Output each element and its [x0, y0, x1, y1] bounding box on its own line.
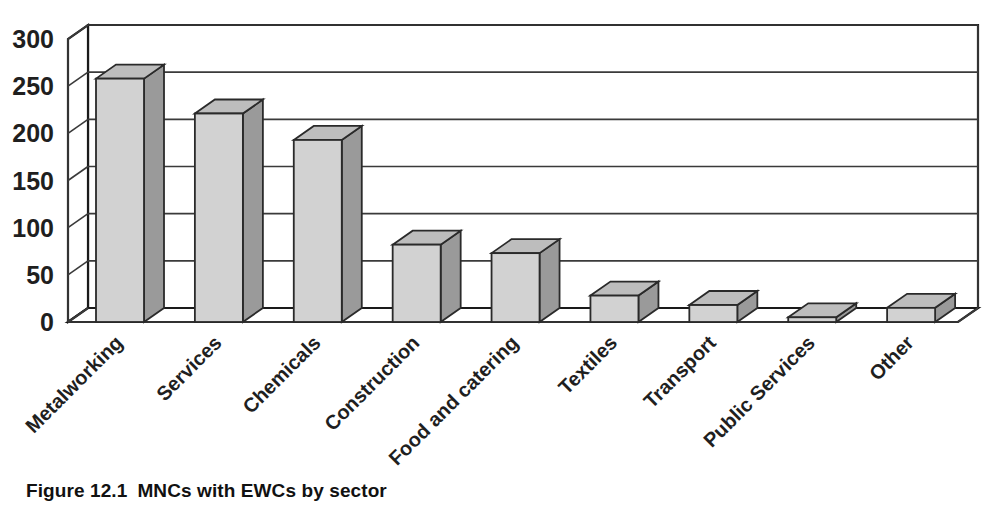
bar-front-face: [590, 296, 638, 322]
bar-chart-3d: 050100150200250300MetalworkingServicesCh…: [0, 0, 995, 470]
x-axis-category-label: Textiles: [554, 331, 621, 398]
x-axis-category-label: Other: [865, 331, 918, 384]
y-axis-tick-label: 150: [12, 167, 54, 195]
bar-front-face: [294, 140, 342, 322]
bar-front-face: [195, 114, 243, 322]
y-axis-tick-label: 300: [12, 25, 54, 53]
bar-front-face: [689, 305, 737, 322]
bar-side-face: [144, 65, 164, 322]
y-axis-tick-label: 200: [12, 119, 54, 147]
figure-caption: Figure 12.1MNCs with EWCs by sector: [26, 480, 966, 502]
bar-5: [492, 239, 560, 322]
bar-side-face: [441, 231, 461, 322]
bar-side-face: [342, 126, 362, 322]
bar-3: [294, 126, 362, 322]
x-axis-category-label: Construction: [320, 331, 424, 435]
bar-front-face: [788, 317, 836, 322]
bar-4: [393, 231, 461, 322]
x-axis-category-label: Transport: [639, 331, 720, 412]
bar-front-face: [96, 79, 144, 322]
bar-front-face: [393, 245, 441, 322]
x-axis-category-label: Chemicals: [238, 331, 324, 417]
y-axis-tick-label: 0: [40, 308, 54, 336]
bar-front-face: [492, 253, 540, 322]
bar-front-face: [887, 308, 935, 322]
bar-1: [96, 65, 164, 322]
x-axis-category-label: Metalworking: [21, 331, 127, 437]
figure-title: MNCs with EWCs by sector: [137, 480, 386, 501]
y-axis-tick-label: 100: [12, 214, 54, 242]
bar-2: [195, 100, 263, 322]
x-axis-category-label: Services: [152, 331, 226, 405]
figure-container: 050100150200250300MetalworkingServicesCh…: [0, 0, 995, 514]
y-axis-tick-label: 50: [26, 261, 54, 289]
bar-side-face: [243, 100, 263, 322]
y-axis-tick-label: 250: [12, 72, 54, 100]
figure-number: Figure 12.1: [26, 480, 127, 501]
bar-6: [590, 282, 658, 322]
